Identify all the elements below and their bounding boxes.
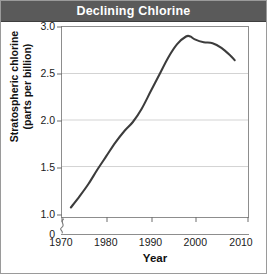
x-tick-mark-2010 [248,217,249,222]
x-tick-label-1990: 1990 [128,237,174,248]
x-axis-title: Year [61,252,249,264]
y-tick-mark-3-0 [57,27,62,28]
x-tick-mark-2000 [196,217,197,222]
x-tick-mark-1990 [151,217,152,222]
x-tick-mark-1980 [106,217,107,222]
x-tick-label-1970: 1970 [38,237,84,248]
y-axis-title-line1: Stratospheric chlorine [8,2,21,172]
x-tick-label-2000: 2000 [172,237,218,248]
y-tick-mark-1-5 [57,168,62,169]
y-tick-mark-2-0 [57,121,62,122]
chlorine-trend-line [71,36,235,208]
y-tick-mark-2-5 [57,74,62,75]
chart-svg [62,27,248,217]
x-tick-label-1980: 1980 [83,237,129,248]
plot-area-wrapper: Stratospheric chlorine (parts per billio… [1,22,266,273]
figure-caption [7,270,262,274]
y-tick-label-2-0: 2.0 [29,115,55,126]
chart-title: Declining Chlorine [76,5,190,18]
plot-frame [61,26,249,218]
y-tick-mark-1-0 [57,215,62,216]
y-tick-label-3-0: 3.0 [29,21,55,32]
x-axis-baseline [61,234,249,235]
y-tick-label-1-5: 1.5 [29,162,55,173]
x-tick-label-2010: 2010 [218,237,264,248]
y-tick-label-1-0: 1.0 [29,209,55,220]
figure-container: Declining Chlorine Stratospheric chlorin… [0,0,267,274]
y-axis-break-icon [58,218,66,234]
y-tick-label-2-5: 2.5 [29,68,55,79]
